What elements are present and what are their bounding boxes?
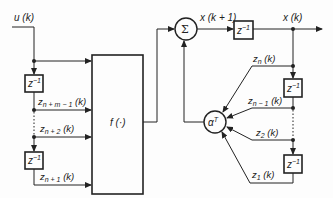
diagram-svg: u (k) z−1 z−1 z−1 z−1 z−1 zn + m − 1 (k)… (0, 0, 333, 198)
delay-labels: z−1 z−1 z−1 z−1 z−1 (27, 24, 300, 170)
function-label: f (·) (110, 117, 126, 128)
state-next-label: x (k + 1) (199, 12, 236, 23)
arrow-znm1-to-alpha (227, 108, 293, 118)
signal-label-z-2: z2 (k) (255, 127, 278, 139)
svg-text:z−1: z−1 (286, 158, 300, 170)
signal-label-z-n-2: zn + 2 (k) (39, 123, 74, 135)
input-label: u (k) (14, 12, 34, 23)
svg-text:z−1: z−1 (27, 154, 41, 166)
gain-symbol: αT (208, 116, 219, 128)
signal-label-z-1: z1 (k) (251, 169, 274, 181)
arrow-alpha-to-sum (184, 41, 204, 122)
svg-text:z−1: z−1 (27, 77, 41, 89)
output-label: x (k) (282, 12, 302, 23)
input-line (12, 27, 34, 61)
svg-text:z−1: z−1 (286, 82, 300, 94)
signal-label-z-n: zn (k) (252, 53, 275, 65)
sum-symbol: Σ (181, 23, 189, 36)
arrow-f-to-sum (143, 29, 174, 122)
signal-label-z-n-m-1: zn + m − 1 (k) (37, 96, 86, 108)
svg-text:z−1: z−1 (236, 24, 250, 36)
signal-label-z-n-minus-1: zn − 1 (k) (247, 95, 282, 107)
signal-label-z-n-1: zn + 1 (k) (39, 171, 74, 183)
block-diagram: u (k) z−1 z−1 z−1 z−1 z−1 zn + m − 1 (k)… (0, 0, 333, 198)
